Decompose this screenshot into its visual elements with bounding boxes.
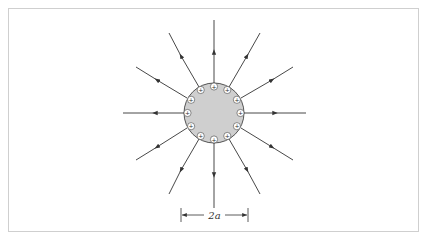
- svg-text:+: +: [189, 96, 194, 103]
- charge-plus-icon: +: [233, 122, 240, 129]
- charge-plus-icon: +: [224, 86, 231, 93]
- svg-text:+: +: [211, 136, 216, 143]
- field-line: [169, 139, 199, 194]
- field-line: [241, 128, 293, 160]
- field-line: [136, 128, 187, 160]
- charge-plus-icon: +: [197, 132, 204, 139]
- svg-text:+: +: [211, 83, 216, 90]
- svg-text:+: +: [234, 122, 239, 129]
- charge-plus-icon: +: [197, 86, 204, 93]
- field-line: [229, 33, 260, 87]
- svg-text:+: +: [185, 109, 190, 116]
- dimension-label: 2a: [207, 210, 220, 221]
- svg-text:+: +: [198, 86, 203, 93]
- svg-text:+: +: [225, 132, 230, 139]
- charge-plus-icon: +: [188, 96, 195, 103]
- field-line: [229, 139, 260, 194]
- charge-plus-icon: +: [184, 109, 191, 116]
- field-line: [136, 67, 187, 98]
- svg-text:+: +: [225, 86, 230, 93]
- charge-plus-icon: +: [224, 132, 231, 139]
- charge-plus-icon: +: [237, 109, 244, 116]
- charged-body: [184, 83, 244, 143]
- charge-plus-icon: +: [188, 122, 195, 129]
- charge-plus-icon: +: [210, 136, 217, 143]
- field-line: [241, 67, 293, 98]
- charged-body-diagram: + + + + + + + + + + + + 2a: [0, 0, 428, 242]
- svg-text:+: +: [234, 96, 239, 103]
- svg-text:+: +: [238, 109, 243, 116]
- field-line: [169, 33, 199, 87]
- charge-plus-icon: +: [210, 83, 217, 90]
- svg-text:+: +: [198, 132, 203, 139]
- charge-plus-icon: +: [233, 96, 240, 103]
- svg-text:+: +: [189, 122, 194, 129]
